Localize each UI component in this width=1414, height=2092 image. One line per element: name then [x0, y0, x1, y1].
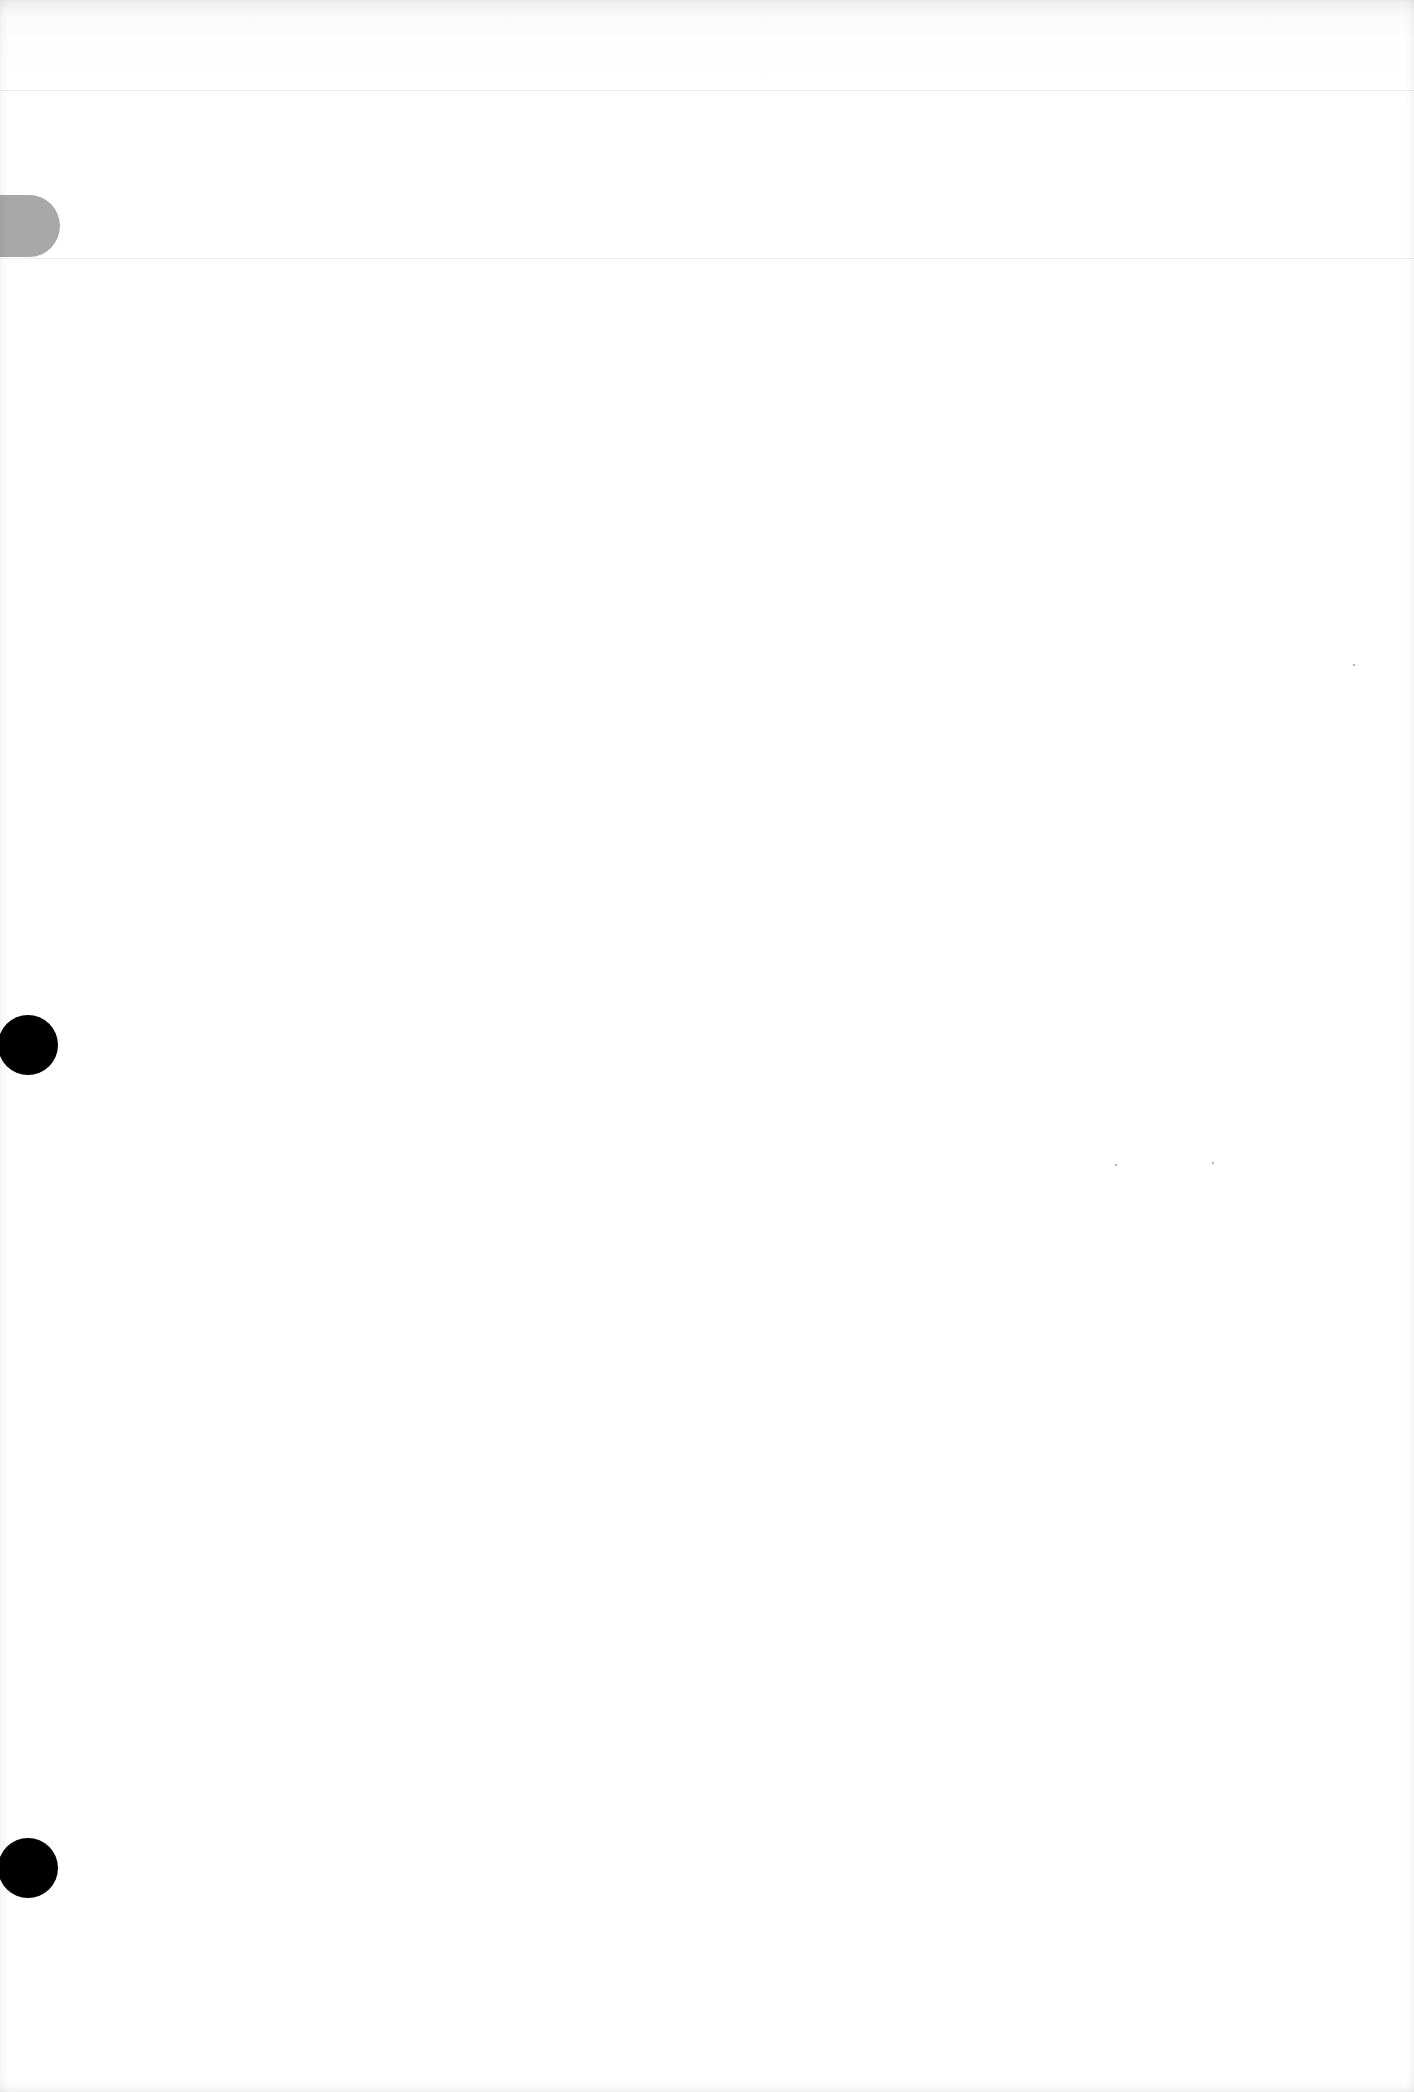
faint-rule-line-top	[0, 90, 1414, 91]
binder-tab-marker	[0, 195, 60, 257]
scan-speck	[1353, 664, 1355, 666]
scan-speck	[1212, 1162, 1214, 1164]
scanned-page	[0, 0, 1414, 2092]
punch-hole-lower	[0, 1838, 58, 1898]
punch-hole-upper	[0, 1015, 58, 1075]
scan-speck	[1115, 1164, 1117, 1166]
faint-rule-line-second	[0, 258, 1414, 259]
